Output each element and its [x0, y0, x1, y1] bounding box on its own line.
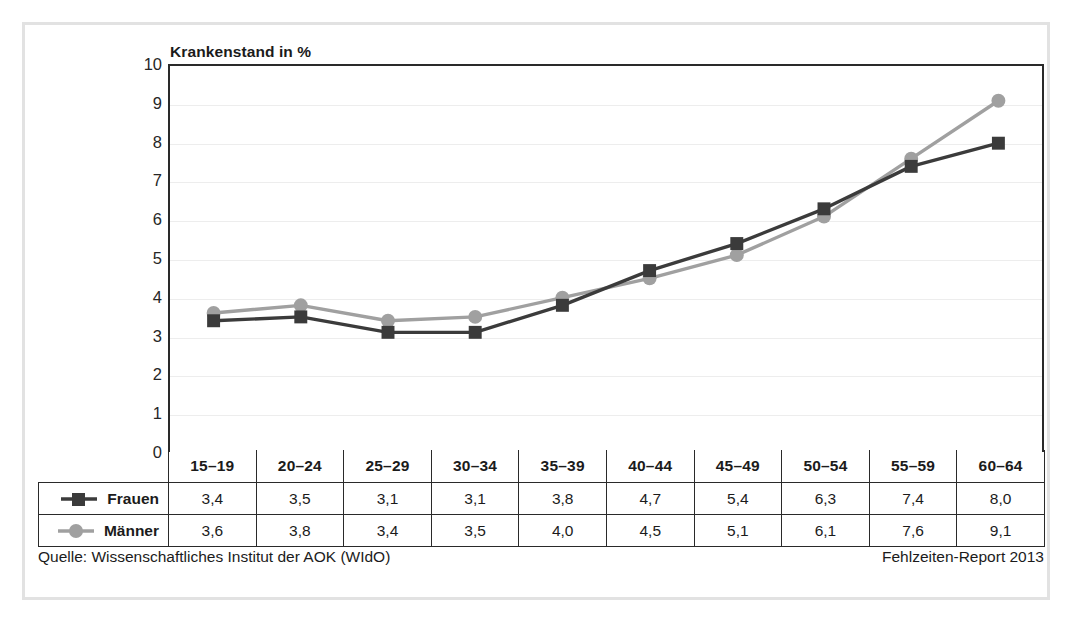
column-header: 40–44 [606, 450, 694, 483]
data-point-männer [730, 248, 744, 262]
data-point-frauen [905, 160, 918, 173]
data-point-frauen [382, 326, 395, 339]
data-point-frauen [469, 326, 482, 339]
data-point-frauen [992, 137, 1005, 150]
column-header: 30–34 [431, 450, 519, 483]
data-point-frauen [556, 299, 569, 312]
column-header: 60–64 [957, 450, 1045, 483]
table-cell-value: 9,1 [957, 515, 1045, 547]
y-tick-label: 2 [122, 365, 162, 384]
data-point-frauen [643, 264, 656, 277]
table-cell-value: 6,1 [782, 515, 870, 547]
column-header: 45–49 [694, 450, 782, 483]
table-cell-value: 4,7 [606, 483, 694, 515]
table-corner-cell [39, 450, 169, 483]
data-point-frauen [730, 237, 743, 250]
chart-title: Krankenstand in % [170, 43, 311, 61]
footer: Quelle: Wissenschaftliches Institut der … [38, 548, 1044, 566]
table-cell-value: 3,4 [344, 515, 432, 547]
table-body: Frauen3,43,53,13,13,84,75,46,37,48,0Männ… [39, 483, 1045, 547]
legend-cell-männer: Männer [39, 515, 169, 547]
table-header-row: 15–1920–2425–2930–3435–3940–4445–4950–54… [39, 450, 1045, 483]
table-cell-value: 5,1 [694, 515, 782, 547]
column-header: 55–59 [869, 450, 957, 483]
table-cell-value: 3,6 [169, 515, 257, 547]
legend-marker-square-icon [60, 491, 98, 507]
y-tick-label: 10 [122, 55, 162, 74]
table-row: Männer3,63,83,43,54,04,55,16,17,69,1 [39, 515, 1045, 547]
data-point-frauen [818, 202, 831, 215]
table-cell-value: 4,0 [519, 515, 607, 547]
column-header: 20–24 [256, 450, 344, 483]
table-cell-value: 3,5 [431, 515, 519, 547]
series-line-frauen [214, 143, 999, 332]
table-cell-value: 5,4 [694, 483, 782, 515]
table-cell-value: 3,5 [256, 483, 344, 515]
report-text: Fehlzeiten-Report 2013 [882, 548, 1044, 566]
y-tick-label: 8 [122, 132, 162, 151]
table-cell-value: 7,4 [869, 483, 957, 515]
plot-inner [170, 66, 1042, 452]
data-point-frauen [294, 310, 307, 323]
data-point-männer [294, 298, 308, 312]
data-table-wrapper: 15–1920–2425–2930–3435–3940–4445–4950–54… [38, 450, 1044, 547]
table-cell-value: 3,8 [519, 483, 607, 515]
table-cell-value: 3,8 [256, 515, 344, 547]
y-tick-label: 6 [122, 210, 162, 229]
y-tick-label: 4 [122, 287, 162, 306]
column-header: 15–19 [169, 450, 257, 483]
data-point-frauen [207, 314, 220, 327]
column-header: 50–54 [782, 450, 870, 483]
y-tick-label: 9 [122, 93, 162, 112]
legend-label: Frauen [107, 490, 159, 507]
y-tick-label: 7 [122, 171, 162, 190]
source-text: Quelle: Wissenschaftliches Institut der … [38, 548, 390, 566]
table-row: Frauen3,43,53,13,13,84,75,46,37,48,0 [39, 483, 1045, 515]
table-cell-value: 7,6 [869, 515, 957, 547]
y-axis-tick-labels: 012345678910 [110, 64, 162, 452]
column-header: 35–39 [519, 450, 607, 483]
legend-cell-frauen: Frauen [39, 483, 169, 515]
table-cell-value: 6,3 [782, 483, 870, 515]
legend-label: Männer [104, 522, 159, 539]
data-point-männer [991, 94, 1005, 108]
table-cell-value: 4,5 [606, 515, 694, 547]
data-point-männer [468, 310, 482, 324]
series-layer [170, 66, 1042, 452]
table-cell-value: 3,1 [431, 483, 519, 515]
y-tick-label: 3 [122, 326, 162, 345]
plot-area [168, 64, 1044, 452]
y-tick-label: 1 [122, 404, 162, 423]
data-point-männer [381, 314, 395, 328]
table-cell-value: 3,1 [344, 483, 432, 515]
figure-frame: Krankenstand in % 012345678910 15–1920–2… [22, 22, 1050, 600]
legend-marker-circle-icon [57, 523, 95, 539]
table-cell-value: 3,4 [169, 483, 257, 515]
figure-inner: Krankenstand in % 012345678910 15–1920–2… [25, 25, 1047, 597]
data-table: 15–1920–2425–2930–3435–3940–4445–4950–54… [38, 450, 1045, 547]
column-header: 25–29 [344, 450, 432, 483]
table-cell-value: 8,0 [957, 483, 1045, 515]
y-tick-label: 5 [122, 249, 162, 268]
